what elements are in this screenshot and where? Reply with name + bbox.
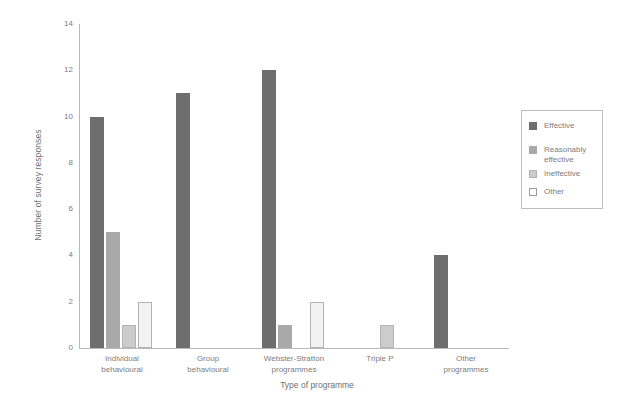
plot-area xyxy=(79,24,509,348)
bar xyxy=(106,232,120,348)
legend-item[interactable]: Other xyxy=(529,187,564,197)
legend-label: Other xyxy=(544,187,564,197)
y-axis-tick-labels: 02468101214 xyxy=(45,0,73,402)
bar xyxy=(434,255,448,348)
bar xyxy=(310,302,324,348)
y-tick-label: 8 xyxy=(47,159,73,167)
legend-swatch-icon xyxy=(529,122,537,130)
y-axis-title: Number of survey responses xyxy=(33,85,43,285)
bar xyxy=(122,325,136,348)
legend: EffectiveReasonably effectiveIneffective… xyxy=(521,110,603,209)
bar xyxy=(278,325,292,348)
legend-swatch-icon xyxy=(529,170,537,178)
legend-label: Effective xyxy=(544,121,575,131)
y-tick-label: 0 xyxy=(47,344,73,352)
x-category-label: Webster-Stratton programmes xyxy=(251,353,337,375)
bar xyxy=(380,325,394,348)
x-axis-line xyxy=(79,348,509,349)
y-tick-label: 4 xyxy=(47,251,73,259)
y-tick-label: 10 xyxy=(47,113,73,121)
bar-chart: Number of survey responses 02468101214 I… xyxy=(0,0,634,402)
legend-item[interactable]: Reasonably effective xyxy=(529,145,586,165)
bar xyxy=(138,302,152,348)
x-category-label: Triple P xyxy=(337,353,423,364)
legend-swatch-icon xyxy=(529,188,537,196)
bar xyxy=(176,93,190,348)
y-tick-label: 12 xyxy=(47,66,73,74)
bar xyxy=(262,70,276,348)
legend-label: Reasonably effective xyxy=(544,145,586,165)
x-category-label: Group behavioural xyxy=(165,353,251,375)
bar xyxy=(90,117,104,348)
x-axis-title: Type of programme xyxy=(0,380,634,390)
x-category-label: Other programmes xyxy=(423,353,509,375)
legend-item[interactable]: Ineffective xyxy=(529,169,580,179)
y-tick-label: 14 xyxy=(47,20,73,28)
x-category-label: Individual behavioural xyxy=(79,353,165,375)
legend-label: Ineffective xyxy=(544,169,580,179)
y-tick-label: 6 xyxy=(47,205,73,213)
legend-swatch-icon xyxy=(529,146,537,154)
y-tick-label: 2 xyxy=(47,298,73,306)
legend-item[interactable]: Effective xyxy=(529,121,575,131)
